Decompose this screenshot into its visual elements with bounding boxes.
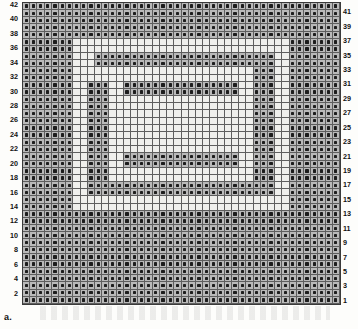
- chart-cell-filled[interactable]: [297, 75, 304, 82]
- chart-cell-filled[interactable]: [95, 247, 102, 254]
- chart-cell-open[interactable]: [275, 53, 282, 60]
- chart-cell-filled[interactable]: [326, 239, 333, 246]
- chart-cell-open[interactable]: [225, 168, 232, 175]
- chart-cell-filled[interactable]: [30, 96, 37, 103]
- chart-cell-filled[interactable]: [189, 282, 196, 289]
- chart-cell-filled[interactable]: [304, 204, 311, 211]
- chart-cell-filled[interactable]: [254, 125, 261, 132]
- chart-cell-open[interactable]: [275, 139, 282, 146]
- chart-cell-filled[interactable]: [311, 89, 318, 96]
- chart-cell-filled[interactable]: [109, 254, 116, 261]
- chart-cell-filled[interactable]: [59, 161, 66, 168]
- chart-cell-filled[interactable]: [167, 182, 174, 189]
- chart-cell-open[interactable]: [117, 110, 124, 117]
- chart-cell-filled[interactable]: [275, 268, 282, 275]
- chart-cell-open[interactable]: [117, 204, 124, 211]
- chart-cell-filled[interactable]: [239, 239, 246, 246]
- chart-cell-filled[interactable]: [333, 182, 340, 189]
- chart-cell-filled[interactable]: [117, 182, 124, 189]
- chart-cell-open[interactable]: [145, 67, 152, 74]
- chart-cell-open[interactable]: [239, 103, 246, 110]
- chart-cell-filled[interactable]: [153, 161, 160, 168]
- chart-cell-open[interactable]: [246, 89, 253, 96]
- chart-cell-open[interactable]: [95, 39, 102, 46]
- chart-cell-open[interactable]: [246, 118, 253, 125]
- chart-cell-filled[interactable]: [109, 290, 116, 297]
- chart-cell-open[interactable]: [282, 196, 289, 203]
- chart-cell-filled[interactable]: [59, 10, 66, 17]
- chart-cell-filled[interactable]: [333, 125, 340, 132]
- chart-cell-filled[interactable]: [189, 17, 196, 24]
- chart-cell-open[interactable]: [203, 146, 210, 153]
- chart-cell-open[interactable]: [246, 153, 253, 160]
- chart-cell-filled[interactable]: [268, 189, 275, 196]
- chart-cell-filled[interactable]: [297, 232, 304, 239]
- chart-cell-open[interactable]: [153, 103, 160, 110]
- chart-cell-filled[interactable]: [196, 268, 203, 275]
- chart-cell-filled[interactable]: [59, 110, 66, 117]
- chart-cell-filled[interactable]: [261, 118, 268, 125]
- chart-cell-open[interactable]: [102, 39, 109, 46]
- chart-cell-filled[interactable]: [333, 153, 340, 160]
- chart-cell-filled[interactable]: [102, 254, 109, 261]
- chart-cell-filled[interactable]: [153, 17, 160, 24]
- chart-cell-filled[interactable]: [138, 10, 145, 17]
- chart-cell-open[interactable]: [189, 175, 196, 182]
- chart-cell-filled[interactable]: [290, 268, 297, 275]
- chart-cell-filled[interactable]: [45, 110, 52, 117]
- chart-cell-open[interactable]: [131, 125, 138, 132]
- chart-cell-filled[interactable]: [37, 96, 44, 103]
- chart-cell-open[interactable]: [153, 196, 160, 203]
- chart-cell-filled[interactable]: [124, 182, 131, 189]
- chart-cell-filled[interactable]: [261, 67, 268, 74]
- chart-cell-filled[interactable]: [189, 232, 196, 239]
- chart-cell-filled[interactable]: [145, 24, 152, 31]
- chart-cell-open[interactable]: [282, 103, 289, 110]
- chart-cell-filled[interactable]: [23, 182, 30, 189]
- chart-cell-filled[interactable]: [218, 261, 225, 268]
- chart-cell-filled[interactable]: [210, 275, 217, 282]
- chart-cell-filled[interactable]: [73, 275, 80, 282]
- chart-cell-filled[interactable]: [131, 225, 138, 232]
- chart-cell-filled[interactable]: [45, 96, 52, 103]
- chart-cell-filled[interactable]: [182, 239, 189, 246]
- chart-cell-open[interactable]: [239, 89, 246, 96]
- chart-cell-filled[interactable]: [59, 153, 66, 160]
- chart-cell-filled[interactable]: [261, 82, 268, 89]
- chart-cell-open[interactable]: [282, 89, 289, 96]
- chart-cell-filled[interactable]: [109, 10, 116, 17]
- chart-cell-filled[interactable]: [196, 53, 203, 60]
- chart-cell-filled[interactable]: [268, 139, 275, 146]
- chart-cell-filled[interactable]: [145, 225, 152, 232]
- chart-cell-open[interactable]: [174, 118, 181, 125]
- chart-cell-filled[interactable]: [326, 32, 333, 39]
- chart-cell-filled[interactable]: [102, 118, 109, 125]
- chart-cell-open[interactable]: [117, 168, 124, 175]
- chart-cell-filled[interactable]: [174, 282, 181, 289]
- chart-cell-filled[interactable]: [203, 189, 210, 196]
- chart-cell-filled[interactable]: [167, 161, 174, 168]
- chart-cell-filled[interactable]: [182, 161, 189, 168]
- chart-cell-filled[interactable]: [290, 211, 297, 218]
- chart-cell-filled[interactable]: [73, 268, 80, 275]
- chart-cell-filled[interactable]: [37, 125, 44, 132]
- chart-cell-open[interactable]: [81, 53, 88, 60]
- chart-cell-filled[interactable]: [37, 82, 44, 89]
- chart-cell-filled[interactable]: [225, 218, 232, 225]
- chart-cell-open[interactable]: [145, 110, 152, 117]
- chart-cell-filled[interactable]: [160, 60, 167, 67]
- chart-cell-filled[interactable]: [333, 96, 340, 103]
- chart-cell-filled[interactable]: [297, 96, 304, 103]
- chart-cell-filled[interactable]: [174, 232, 181, 239]
- chart-cell-open[interactable]: [275, 175, 282, 182]
- chart-cell-filled[interactable]: [30, 282, 37, 289]
- chart-cell-filled[interactable]: [218, 82, 225, 89]
- chart-cell-filled[interactable]: [174, 161, 181, 168]
- chart-cell-filled[interactable]: [45, 139, 52, 146]
- chart-cell-filled[interactable]: [73, 282, 80, 289]
- chart-cell-filled[interactable]: [37, 204, 44, 211]
- chart-cell-filled[interactable]: [109, 32, 116, 39]
- chart-cell-open[interactable]: [81, 96, 88, 103]
- chart-cell-filled[interactable]: [182, 32, 189, 39]
- chart-cell-open[interactable]: [182, 96, 189, 103]
